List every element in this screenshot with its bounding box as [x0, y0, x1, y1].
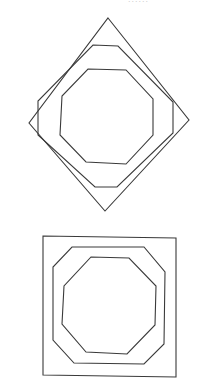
- diagram-canvas: [0, 0, 210, 385]
- upright-square-figure: [43, 236, 176, 377]
- inner-octagon: [60, 69, 153, 164]
- inner-octagon: [62, 257, 156, 354]
- middle-octagon: [53, 247, 165, 364]
- outer-diamond: [29, 18, 189, 211]
- rotated-square-figure: [29, 18, 189, 211]
